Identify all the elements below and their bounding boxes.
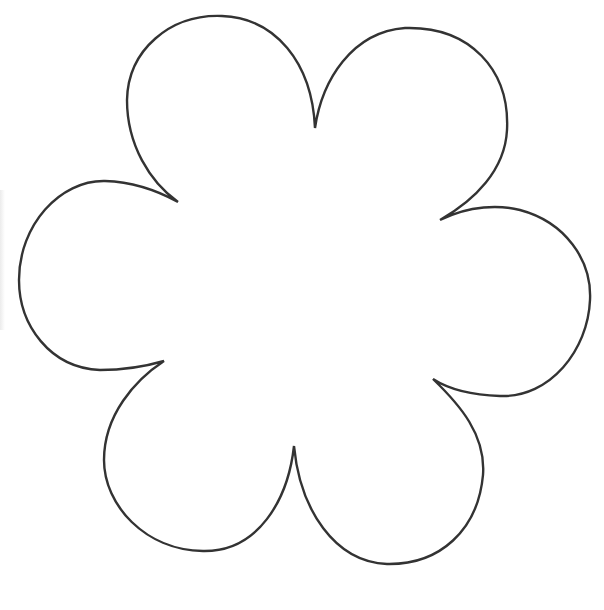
flower-outline xyxy=(19,16,590,564)
flower-canvas xyxy=(0,0,604,610)
